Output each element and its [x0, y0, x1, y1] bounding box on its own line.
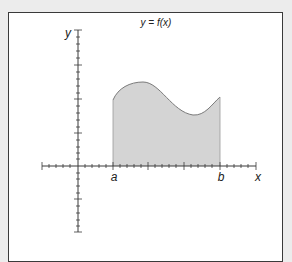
- y-axis: [74, 30, 82, 232]
- bound-a-label: a: [111, 170, 118, 184]
- bound-b-label: b: [218, 170, 225, 184]
- shaded-area: [113, 82, 220, 166]
- x-axis-label: x: [254, 170, 262, 184]
- y-axis-label: y: [64, 26, 72, 40]
- diagram-title: y = f(x): [140, 17, 172, 28]
